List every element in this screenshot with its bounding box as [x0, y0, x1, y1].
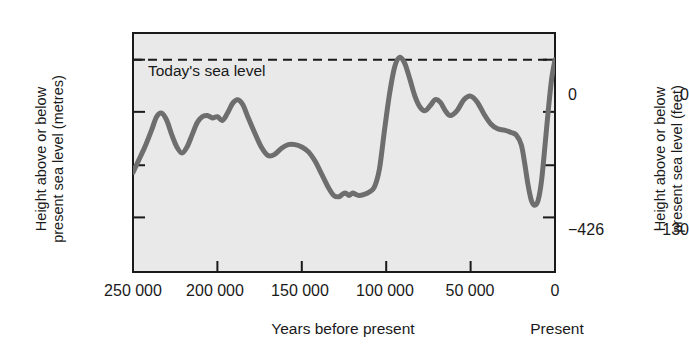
y-right-tick-label-426: −426: [568, 221, 604, 239]
plot-area: [0, 0, 689, 355]
present-label: Present: [492, 320, 622, 338]
sea-level-annotation: Today's sea level: [148, 62, 266, 80]
x-tick-label-0: 0: [530, 282, 580, 300]
y-left-tick-label-0: 0: [561, 86, 689, 104]
x-axis-title: Years before present: [233, 320, 453, 338]
x-tick-label-50000: 50 000: [424, 282, 516, 300]
y-right-tick-label-0: 0: [568, 86, 577, 104]
sea-level-chart: Height above or below present sea level …: [0, 0, 689, 355]
x-tick-label-100000: 100 000: [335, 282, 435, 300]
